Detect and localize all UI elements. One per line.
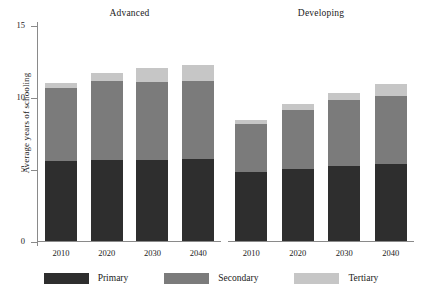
bar-group-advanced-2030[interactable]: [136, 25, 168, 241]
y-tick-10: [31, 98, 37, 99]
legend-label-primary: Primary: [98, 273, 129, 284]
bar-segment-primary: [91, 160, 123, 241]
bar-segment-secondary: [45, 88, 77, 161]
y-tick-label-0: 0: [3, 237, 25, 246]
panel-advanced-x-axis: [38, 241, 221, 242]
panel-advanced-title: Advanced: [38, 8, 221, 18]
bar-group-developing-2020[interactable]: [282, 25, 314, 241]
stacked-bar-chart: Average years of schooling 151050 Advanc…: [0, 0, 422, 291]
bar-segment-secondary: [182, 81, 214, 159]
legend-swatch-secondary: [164, 273, 209, 284]
bar-segment-primary: [282, 169, 314, 241]
panel-advanced: Advanced 2010202020302040: [38, 22, 221, 246]
panel-advanced-bars: [38, 25, 221, 241]
panel-advanced-x-labels: 2010202020302040: [38, 247, 221, 259]
panel-developing-bars: [228, 25, 414, 241]
x-tick-label-2010: 2010: [235, 247, 267, 259]
x-tick-label-2020: 2020: [91, 247, 123, 259]
x-tick-label-2040: 2040: [182, 247, 214, 259]
x-tick-label-2010: 2010: [45, 247, 77, 259]
bar-segment-primary: [136, 160, 168, 241]
x-tick-label-2020: 2020: [282, 247, 314, 259]
bar-segment-primary: [328, 166, 360, 241]
chart-legend: PrimarySecondaryTertiary: [0, 270, 422, 286]
bar-segment-primary: [45, 161, 77, 241]
bar-group-advanced-2010[interactable]: [45, 25, 77, 241]
bar-segment-tertiary: [91, 73, 123, 82]
panel-developing-title: Developing: [228, 8, 414, 18]
bar-group-developing-2030[interactable]: [328, 25, 360, 241]
panel-developing-x-axis: [228, 241, 414, 242]
panel-developing-x-labels: 2010202020302040: [228, 247, 414, 259]
legend-item-secondary[interactable]: Secondary: [164, 273, 258, 284]
bar-group-advanced-2020[interactable]: [91, 25, 123, 241]
bar-segment-tertiary: [328, 93, 360, 100]
legend-item-tertiary[interactable]: Tertiary: [294, 273, 378, 284]
bar-segment-secondary: [136, 82, 168, 160]
bar-segment-secondary: [328, 100, 360, 166]
bar-group-developing-2040[interactable]: [375, 25, 407, 241]
bar-segment-secondary: [375, 96, 407, 164]
legend-swatch-tertiary: [294, 273, 339, 284]
panel-developing: Developing 2010202020302040: [228, 22, 414, 246]
y-tick-5: [31, 170, 37, 171]
x-tick-label-2030: 2030: [136, 247, 168, 259]
bar-segment-secondary: [282, 110, 314, 169]
legend-label-tertiary: Tertiary: [348, 273, 378, 284]
y-tick-label-15: 15: [3, 21, 25, 30]
y-tick-0: [31, 242, 37, 243]
bar-segment-primary: [375, 164, 407, 241]
legend-label-secondary: Secondary: [218, 273, 258, 284]
bar-segment-secondary: [91, 81, 123, 160]
bar-segment-secondary: [235, 124, 267, 172]
bar-segment-tertiary: [375, 84, 407, 96]
bar-segment-tertiary: [182, 65, 214, 81]
y-tick-label-10: 10: [3, 93, 25, 102]
bar-group-developing-2010[interactable]: [235, 25, 267, 241]
legend-swatch-primary: [44, 273, 89, 284]
legend-item-primary[interactable]: Primary: [44, 273, 129, 284]
y-tick-15: [31, 26, 37, 27]
x-tick-label-2040: 2040: [375, 247, 407, 259]
bar-segment-tertiary: [136, 68, 168, 82]
bar-group-advanced-2040[interactable]: [182, 25, 214, 241]
x-tick-label-2030: 2030: [328, 247, 360, 259]
bar-segment-primary: [235, 172, 267, 241]
y-tick-label-5: 5: [3, 165, 25, 174]
bar-segment-primary: [182, 159, 214, 241]
